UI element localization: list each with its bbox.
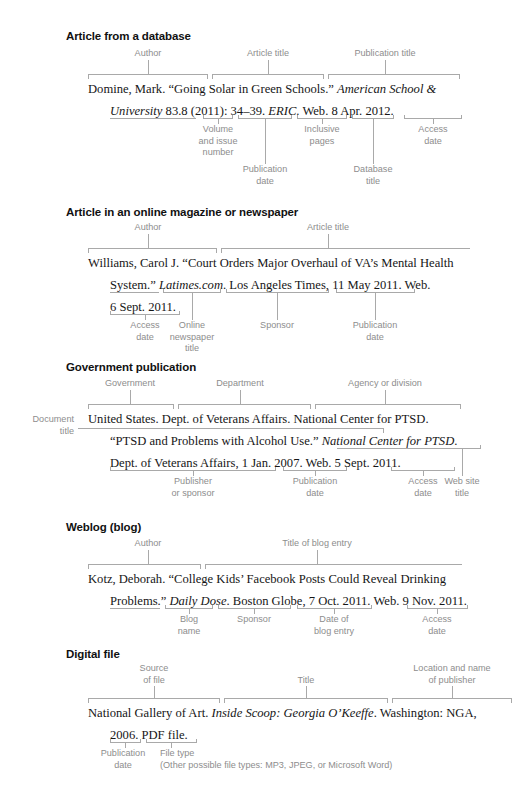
label-online-newspaper-title: Online newspaper title bbox=[156, 320, 228, 355]
label-publication-date: Publication date bbox=[84, 748, 162, 771]
label-access-date: Access date bbox=[401, 614, 473, 637]
label-author: Author bbox=[108, 48, 188, 60]
citation-line: Williams, Carol J. “Court Orders Major O… bbox=[88, 252, 454, 274]
citation-italic-filetitle: Inside Scoop: Georgia O’Keeffe bbox=[211, 706, 373, 720]
label-date-of-blog-entry: Date of blog entry bbox=[298, 614, 370, 637]
stem-author bbox=[148, 60, 149, 74]
bracket-continuation bbox=[110, 292, 159, 293]
section-heading: Weblog (blog) bbox=[66, 521, 141, 533]
bracket-author bbox=[88, 74, 208, 75]
stem-publication-title bbox=[385, 60, 386, 74]
label-agency-or-division: Agency or division bbox=[330, 378, 440, 390]
stem-agency-or-division bbox=[385, 390, 386, 404]
label-title: Title bbox=[270, 675, 342, 687]
bracket-tick bbox=[480, 445, 481, 449]
label-department: Department bbox=[200, 378, 280, 390]
citation-text-1: Domine, Mark. “Going Solar in Green Scho… bbox=[88, 82, 337, 96]
label-access-date: Access date bbox=[397, 124, 469, 147]
citation-italic-2: University bbox=[110, 104, 162, 118]
citation-line: National Gallery of Art. Inside Scoop: G… bbox=[88, 702, 477, 724]
label-publication-date: Publication date bbox=[339, 320, 411, 343]
stem-department bbox=[240, 390, 241, 404]
bracket-author bbox=[88, 564, 201, 565]
section-heading: Article from a database bbox=[66, 30, 191, 42]
label-document-title: Document title bbox=[12, 414, 74, 437]
stem-author bbox=[148, 234, 149, 248]
section-heading: Article in an online magazine or newspap… bbox=[66, 206, 298, 218]
label-publication-title: Publication title bbox=[330, 48, 440, 60]
stem-online-newspaper-title bbox=[192, 292, 193, 320]
label-sponsor: Sponsor bbox=[218, 614, 290, 626]
label-publication-date: Publication date bbox=[279, 476, 351, 499]
stem-sponsor bbox=[277, 292, 278, 320]
stem-publication-date bbox=[375, 292, 376, 320]
citation-line: United States. Dept. of Veterans Affairs… bbox=[88, 408, 429, 430]
label-title-of-blog-entry: Title of blog entry bbox=[262, 538, 372, 550]
label-sponsor: Sponsor bbox=[241, 320, 313, 332]
bracket-continuation bbox=[110, 118, 196, 119]
label-article-title: Article title bbox=[288, 222, 368, 234]
bracket-publication-title bbox=[328, 74, 460, 75]
label-author: Author bbox=[108, 222, 188, 234]
stem-location-and-name-of-publisher bbox=[452, 686, 453, 698]
stem-article-title bbox=[268, 60, 269, 74]
citation-line: Kotz, Deborah. “College Kids’ Facebook P… bbox=[88, 568, 446, 590]
section-heading: Digital file bbox=[66, 648, 120, 660]
label-article-title: Article title bbox=[228, 48, 308, 60]
citation-diagram-page: Article from a database Author Article t… bbox=[0, 0, 520, 809]
label-author: Author bbox=[108, 538, 188, 550]
bracket-government bbox=[88, 404, 174, 405]
citation-italic-3: ERIC bbox=[268, 104, 296, 118]
stem-title bbox=[306, 686, 307, 698]
bracket-article-title bbox=[221, 248, 470, 249]
label-location-and-name-of-publisher: Location and name of publisher bbox=[398, 663, 506, 686]
bracket-title-of-blog-entry bbox=[205, 564, 462, 565]
stem-title-of-blog-entry bbox=[317, 550, 318, 564]
label-publisher-or-sponsor: Publisher or sponsor bbox=[157, 476, 229, 499]
label-volume-and-issue-number: Volume and issue number bbox=[178, 124, 258, 159]
label-blog-name: Blog name bbox=[153, 614, 225, 637]
section-heading: Government publication bbox=[66, 361, 196, 373]
bracket-source-of-file bbox=[88, 698, 220, 699]
stem-author bbox=[148, 550, 149, 564]
bracket-web-site-title bbox=[337, 448, 481, 449]
bracket-location-and-name-of-publisher bbox=[392, 698, 512, 699]
connector-document-title bbox=[78, 428, 383, 429]
label-publication-date: Publication date bbox=[229, 164, 301, 187]
bracket-title bbox=[224, 698, 388, 699]
citation-italic-site: National Center for PTSD bbox=[322, 434, 455, 448]
label-file-type: File type bbox=[160, 748, 194, 760]
stem-publication-date bbox=[265, 118, 266, 164]
stem-source-of-file bbox=[154, 686, 155, 698]
label-web-site-title: Web site title bbox=[428, 476, 496, 499]
citation-italic-latimes: Latimes.com bbox=[159, 278, 223, 292]
bracket-article-title bbox=[212, 74, 324, 75]
stem-government bbox=[130, 390, 131, 404]
stem-database-title bbox=[373, 118, 374, 164]
bracket-continuation bbox=[110, 608, 160, 609]
note-other-file-types: (Other possible file types: MP3, JPEG, o… bbox=[160, 760, 392, 772]
citation-line: Domine, Mark. “Going Solar in Green Scho… bbox=[88, 78, 436, 100]
bracket-author bbox=[88, 248, 217, 249]
stem-web-site-title bbox=[462, 448, 463, 476]
stem-article-title bbox=[328, 234, 329, 248]
label-inclusive-pages: Inclusive pages bbox=[286, 124, 358, 147]
label-government: Government bbox=[90, 378, 170, 390]
bracket-department bbox=[178, 404, 311, 405]
label-source-of-file: Source of file bbox=[118, 663, 190, 686]
citation-italic-1: American School & bbox=[337, 82, 436, 96]
label-database-title: Database title bbox=[337, 164, 409, 187]
bracket-agency-or-division bbox=[315, 404, 461, 405]
